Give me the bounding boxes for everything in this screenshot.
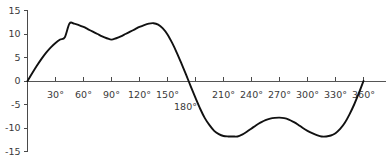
y-tick-label: 15 xyxy=(8,5,20,16)
x-tick-label: 300° xyxy=(296,89,319,100)
y-tick-label: 10 xyxy=(8,28,20,39)
x-tick-label: 90° xyxy=(103,89,120,100)
x-tick-label: 150° xyxy=(156,89,179,100)
x-tick-label: 240° xyxy=(240,89,263,100)
y-tick-label: -10 xyxy=(5,122,21,133)
x-tick-label: 360° xyxy=(352,89,375,100)
y-tick-label: -15 xyxy=(5,146,21,157)
x-tick-label: 60° xyxy=(75,89,92,100)
x-tick-label: 330° xyxy=(324,89,347,100)
x-tick-label: 30° xyxy=(47,89,64,100)
y-tick-label: 5 xyxy=(14,52,20,63)
x-tick-label: 180° xyxy=(174,101,197,112)
x-tick-label: 270° xyxy=(268,89,291,100)
angle-axis: 30°60°90°120°150°180°210°240°270°300°330… xyxy=(28,77,387,112)
chart-container: 151050-5-10-15 30°60°90°120°150°180°210°… xyxy=(0,0,388,163)
y-tick-label: -5 xyxy=(11,99,20,110)
x-tick-label: 210° xyxy=(212,89,235,100)
x-tick-label: 120° xyxy=(128,89,151,100)
waveform-chart: 151050-5-10-15 30°60°90°120°150°180°210°… xyxy=(0,0,388,163)
y-tick-label: 0 xyxy=(14,75,20,86)
value-axis: 151050-5-10-15 xyxy=(5,5,28,157)
